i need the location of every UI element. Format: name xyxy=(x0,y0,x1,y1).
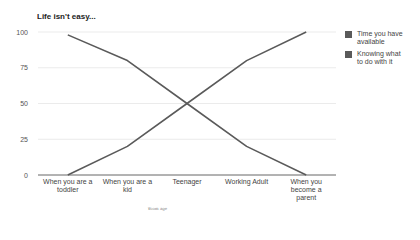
y-tick-label: 100 xyxy=(16,29,28,36)
x-tick-label: When you xyxy=(290,178,322,186)
legend-label: Time you haveavailable xyxy=(357,30,417,46)
x-tick-label: toddler xyxy=(57,186,79,193)
y-tick-label: 0 xyxy=(24,172,28,179)
x-tick-label: When you are a xyxy=(43,178,93,186)
x-tick-label: parent xyxy=(296,194,316,202)
x-tick-label: become a xyxy=(291,186,322,193)
legend: Time you haveavailable Knowing whatto do… xyxy=(345,30,417,70)
x-tick-label: Teenager xyxy=(172,178,202,186)
y-tick-label: 50 xyxy=(20,100,28,107)
x-tick-label: kid xyxy=(123,186,132,193)
legend-label: Knowing whatto do with it xyxy=(357,50,417,66)
watermark-logo: Ꝟoom age xyxy=(148,206,167,211)
legend-swatch-icon xyxy=(345,51,352,58)
legend-item-time: Time you haveavailable xyxy=(345,30,417,46)
y-tick-label: 75 xyxy=(20,64,28,71)
y-tick-label: 25 xyxy=(20,136,28,143)
series-line xyxy=(68,35,306,175)
legend-swatch-icon xyxy=(345,31,352,38)
legend-item-knowing: Knowing whatto do with it xyxy=(345,50,417,66)
x-tick-label: Working Adult xyxy=(225,178,268,186)
x-tick-label: When you are a xyxy=(103,178,153,186)
